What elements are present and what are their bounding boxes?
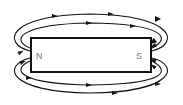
bar-magnet (31, 38, 151, 72)
magnet-field-diagram: N S (0, 0, 183, 105)
north-pole-label: N (36, 51, 43, 61)
south-pole-label: S (136, 51, 142, 61)
